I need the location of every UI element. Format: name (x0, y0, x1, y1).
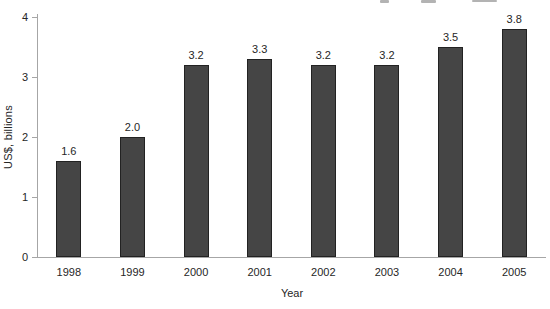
cropped-text-artifact (421, 0, 436, 3)
y-tick-label-2: 2 (0, 132, 28, 143)
bar-2002 (311, 65, 336, 257)
y-tick-label-1: 1 (0, 192, 28, 203)
x-tick-label-1998: 1998 (46, 266, 92, 278)
bar-chart: US$, billions Year 012341.619982.019993.… (0, 0, 550, 309)
x-tick-label-2003: 2003 (364, 266, 410, 278)
bar-value-label-1998: 1.6 (49, 145, 89, 157)
x-tick-label-2002: 2002 (300, 266, 346, 278)
bar-value-label-2001: 3.3 (240, 43, 280, 55)
y-tick-1 (32, 197, 37, 198)
x-tick-label-2005: 2005 (491, 266, 537, 278)
bar-value-label-1999: 2.0 (112, 121, 152, 133)
bar-1998 (56, 161, 81, 257)
bar-value-label-2002: 3.2 (303, 49, 343, 61)
bar-2001 (247, 59, 272, 257)
y-tick-label-3: 3 (0, 72, 28, 83)
cropped-text-artifact (380, 0, 389, 3)
y-tick-2 (32, 137, 37, 138)
bar-2004 (438, 47, 463, 257)
bar-1999 (120, 137, 145, 257)
bar-2000 (184, 65, 209, 257)
y-axis-line (37, 14, 38, 258)
x-tick-label-2001: 2001 (237, 266, 283, 278)
x-axis-title: Year (264, 287, 320, 299)
cropped-text-artifact (472, 0, 497, 2)
bar-value-label-2003: 3.2 (367, 49, 407, 61)
bar-value-label-2005: 3.8 (494, 13, 534, 25)
bar-2003 (374, 65, 399, 257)
bar-value-label-2000: 3.2 (176, 49, 216, 61)
y-tick-label-0: 0 (0, 252, 28, 263)
y-tick-3 (32, 77, 37, 78)
x-tick-label-1999: 1999 (109, 266, 155, 278)
y-tick-0 (32, 257, 37, 258)
bar-2005 (502, 29, 527, 257)
y-tick-4 (32, 17, 37, 18)
x-axis-line (37, 257, 546, 258)
x-tick-label-2004: 2004 (428, 266, 474, 278)
bar-value-label-2004: 3.5 (431, 31, 471, 43)
x-tick-label-2000: 2000 (173, 266, 219, 278)
y-tick-label-4: 4 (0, 12, 28, 23)
